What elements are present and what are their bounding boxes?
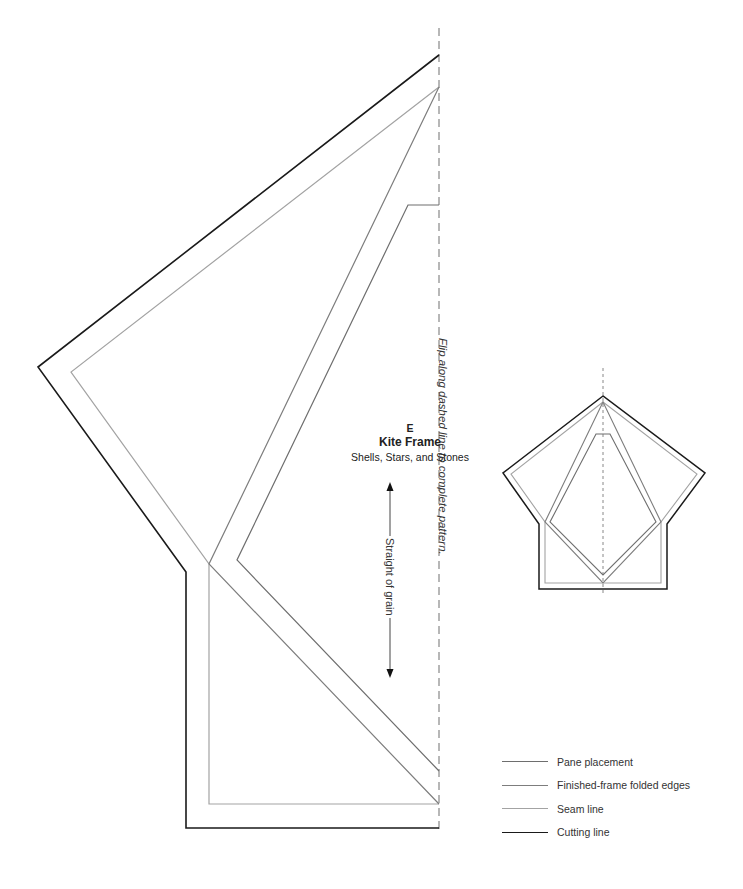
legend-item-cut: Cutting line [502, 821, 690, 845]
pane-placement-line [237, 205, 439, 771]
arrow-down-icon [387, 669, 394, 678]
legend-swatch-fold [502, 785, 548, 786]
legend-label: Finished-frame folded edges [557, 779, 690, 791]
arrow-up-icon [387, 482, 394, 491]
legend-swatch-seam [502, 808, 548, 809]
legend-label: Pane placement [557, 756, 633, 768]
completed-kite-diagram [503, 368, 705, 593]
legend-item-fold: Finished-frame folded edges [502, 774, 690, 798]
legend-label: Seam line [557, 803, 604, 815]
grain-label: Straight of grain [384, 536, 396, 618]
pattern-label: E Kite Frame Shells, Stars, and Stones [300, 422, 520, 464]
legend: Pane placement Finished-frame folded edg… [502, 750, 690, 844]
legend-swatch-cut [502, 832, 548, 833]
legend-item-seam: Seam line [502, 797, 690, 821]
diagram-cutting-line [503, 396, 705, 589]
pattern-title: Kite Frame [300, 435, 520, 450]
pattern-letter: E [300, 422, 520, 435]
diagram-pane-placement-line [550, 434, 656, 575]
flip-instruction: Flip along dashed line to complete patte… [437, 338, 449, 555]
legend-label: Cutting line [557, 826, 610, 838]
legend-swatch-pane [502, 761, 548, 762]
pattern-subtitle: Shells, Stars, and Stones [300, 450, 520, 464]
legend-item-pane: Pane placement [502, 750, 690, 774]
